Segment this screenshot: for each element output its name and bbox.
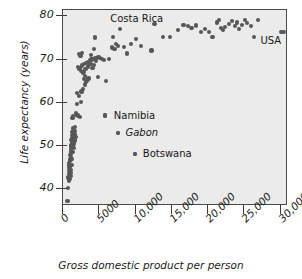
x-axis-tick-label: 15,000	[167, 190, 201, 224]
scatter-plot-figure: Costa RicaUSANamibiaGabonBotswana 405060…	[0, 0, 302, 279]
x-axis-title: Gross domestic product per person	[0, 259, 302, 271]
y-axis-tick-label: 80	[24, 8, 54, 21]
x-axis-tick-label: 25,000	[239, 190, 273, 224]
y-axis-tick	[56, 145, 67, 146]
y-axis-tick	[56, 15, 67, 16]
y-axis-tick	[56, 102, 67, 103]
y-axis-tick-label: 40	[24, 181, 54, 194]
y-axis-title: Life expectancy (years)	[18, 22, 30, 182]
axes-layer: 40506070800500010,00015,00020,00025,0003…	[0, 0, 302, 279]
y-axis-tick	[56, 59, 67, 60]
x-axis-tick-label: 5000	[94, 197, 121, 224]
x-axis-tick-label: 10,000	[131, 190, 165, 224]
y-axis-tick	[56, 188, 67, 189]
x-axis-tick-label: 0	[58, 211, 71, 224]
x-axis-tick-label: 20,000	[203, 190, 237, 224]
